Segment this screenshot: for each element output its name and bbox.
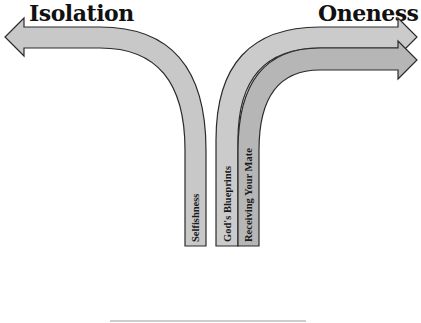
selfishness-label: Selfishness [190,194,201,242]
receiving-your-mate-label: Receiving Your Mate [243,148,254,242]
receiving-your-mate-arrow [238,41,417,246]
selfishness-arrow [5,18,206,246]
gods-blueprints-label: God's Blueprints [222,166,233,242]
arrow-diagram: Selfishness God's Blueprints Receiving Y… [0,0,421,323]
